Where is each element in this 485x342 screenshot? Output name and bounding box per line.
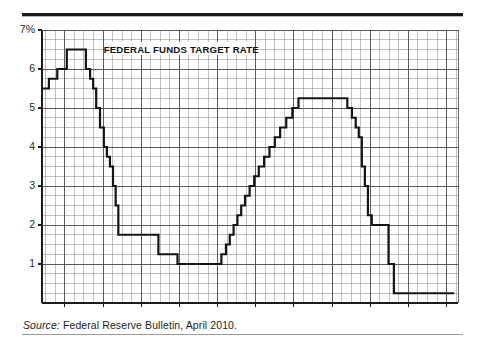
source-label: Source: — [23, 319, 60, 331]
figure-container: 1234567% 2000200120022003200420052006200… — [0, 0, 485, 342]
data-series-line — [42, 50, 454, 294]
top-rule-divider — [22, 13, 463, 16]
bottom-rule-divider — [22, 334, 463, 335]
svg-text:7%: 7% — [20, 23, 35, 35]
grid-minor-lines — [42, 30, 458, 303]
source-text: Federal Reserve Bulletin, April 2010. — [63, 319, 237, 331]
svg-text:1: 1 — [29, 257, 35, 269]
svg-text:3: 3 — [29, 179, 35, 191]
svg-text:2: 2 — [29, 218, 35, 230]
svg-text:4: 4 — [29, 140, 35, 152]
axis-ticks — [38, 30, 447, 307]
source-note: Source: Federal Reserve Bulletin, April … — [23, 319, 237, 331]
svg-text:6: 6 — [29, 62, 35, 74]
chart-plot-area: 1234567% 2000200120022003200420052006200… — [0, 18, 485, 308]
svg-text:FEDERAL FUNDS TARGET RATE: FEDERAL FUNDS TARGET RATE — [104, 44, 260, 55]
svg-text:5: 5 — [29, 101, 35, 113]
chart-title: FEDERAL FUNDS TARGET RATE — [104, 42, 260, 55]
y-axis-tick-labels: 1234567% — [20, 23, 35, 269]
federal-funds-target-rate-chart: 1234567% 2000200120022003200420052006200… — [0, 18, 485, 308]
